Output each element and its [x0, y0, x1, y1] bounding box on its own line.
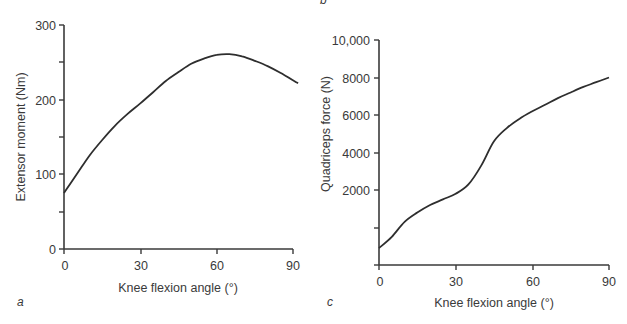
chart-a-extensor-moment-curve: [64, 54, 298, 193]
chart-c-quadriceps-force-curve: [379, 78, 609, 249]
chart-a-x-axis-title: Knee flexion angle (°): [118, 281, 238, 295]
chart-a-y-tick-300: 300: [35, 19, 56, 33]
panel-label-b: b: [320, 0, 327, 7]
chart-c: 10,000 8000 6000 4000 2000 0 30 60 90 Kn…: [319, 34, 616, 310]
chart-a-x-tick-0: 0: [62, 259, 69, 273]
chart-a-x-tick-30: 30: [134, 259, 148, 273]
chart-a-y-tick-100: 100: [35, 168, 56, 182]
figure: 300 200 100 0 0 30 60 90 Knee flexion an…: [0, 0, 627, 324]
panel-label-a: a: [17, 295, 24, 309]
chart-c-y-tick-8000: 8000: [342, 72, 370, 86]
chart-a-y-tick-0: 0: [49, 243, 56, 257]
chart-c-x-tick-30: 30: [449, 275, 463, 289]
chart-a-x-tick-60: 60: [210, 259, 224, 273]
chart-c-y-tick-6000: 6000: [342, 109, 370, 123]
chart-c-y-tick-2000: 2000: [342, 184, 370, 198]
chart-a-y-tick-200: 200: [35, 94, 56, 108]
chart-c-y-axis-title: Quadriceps force (N): [319, 76, 333, 192]
chart-a-y-axis-title: Extensor moment (Nm): [14, 72, 28, 201]
chart-c-x-axis-title: Knee flexion angle (°): [434, 296, 554, 310]
chart-c-x-tick-0: 0: [377, 275, 384, 289]
chart-c-y-tick-4000: 4000: [342, 147, 370, 161]
chart-a: 300 200 100 0 0 30 60 90 Knee flexion an…: [14, 19, 300, 309]
chart-c-x-tick-60: 60: [526, 275, 540, 289]
chart-c-y-tick-10000: 10,000: [332, 34, 370, 48]
chart-c-x-tick-90: 90: [602, 275, 616, 289]
chart-a-x-tick-90: 90: [286, 259, 300, 273]
panel-label-c: c: [327, 295, 333, 309]
